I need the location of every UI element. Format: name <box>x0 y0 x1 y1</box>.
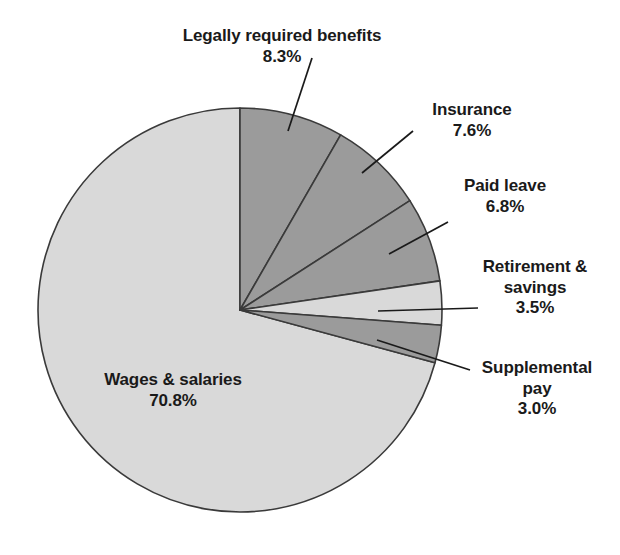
slice-label-percent: 8.3% <box>162 47 402 68</box>
slice-label-name-line1: Retirement & <box>445 257 620 278</box>
slice-label-percent: 3.0% <box>447 399 620 420</box>
slice-label-name-line1: Supplemental <box>447 358 620 379</box>
slice-label-name-line2: savings <box>445 278 620 299</box>
slice-label-percent: 7.6% <box>372 121 572 142</box>
slice-label-paid-leave: Paid leave 6.8% <box>405 176 605 217</box>
slice-label-percent: 70.8% <box>53 391 293 412</box>
slice-label-insurance: Insurance 7.6% <box>372 100 572 141</box>
slice-label-legally-required-benefits: Legally required benefits 8.3% <box>162 26 402 67</box>
slice-label-wages-salaries: Wages & salaries 70.8% <box>53 370 293 411</box>
slice-label-percent: 3.5% <box>445 298 620 319</box>
slice-label-name: Wages & salaries <box>53 370 293 391</box>
slice-label-name: Paid leave <box>405 176 605 197</box>
slice-label-retirement-savings: Retirement & savings 3.5% <box>445 257 620 319</box>
slice-label-supplemental-pay: Supplemental pay 3.0% <box>447 358 620 420</box>
slice-label-name: Legally required benefits <box>162 26 402 47</box>
pie-chart: Legally required benefits 8.3% Insurance… <box>0 0 620 555</box>
slice-label-name: Insurance <box>372 100 572 121</box>
slice-label-name-line2: pay <box>447 379 620 400</box>
slice-label-percent: 6.8% <box>405 197 605 218</box>
